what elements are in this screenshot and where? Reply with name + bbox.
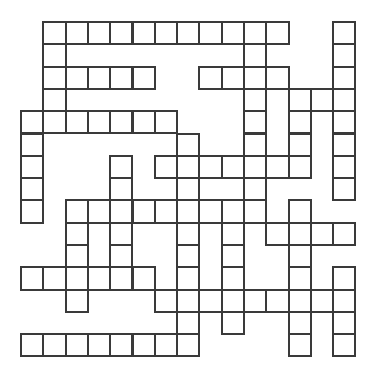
crossword-cell-r0-c3[interactable] <box>87 21 111 45</box>
crossword-cell-r1-c10[interactable] <box>243 43 267 67</box>
crossword-cell-r5-c14[interactable] <box>332 133 356 157</box>
crossword-cell-r6-c14[interactable] <box>332 155 356 179</box>
crossword-cell-r14-c2[interactable] <box>65 333 89 357</box>
crossword-cell-r4-c2[interactable] <box>65 110 89 134</box>
crossword-cell-r5-c0[interactable] <box>20 133 44 157</box>
crossword-cell-r10-c12[interactable] <box>288 244 312 268</box>
crossword-cell-r11-c2[interactable] <box>65 266 89 290</box>
crossword-cell-r6-c7[interactable] <box>176 155 200 179</box>
crossword-cell-r10-c9[interactable] <box>221 244 245 268</box>
crossword-cell-r14-c14[interactable] <box>332 333 356 357</box>
crossword-cell-r11-c4[interactable] <box>109 266 133 290</box>
crossword-cell-r4-c1[interactable] <box>42 110 66 134</box>
crossword-cell-r9-c2[interactable] <box>65 222 89 246</box>
crossword-cell-r3-c1[interactable] <box>42 88 66 112</box>
crossword-cell-r2-c2[interactable] <box>65 66 89 90</box>
crossword-cell-r0-c6[interactable] <box>154 21 178 45</box>
crossword-cell-r11-c3[interactable] <box>87 266 111 290</box>
crossword-cell-r2-c1[interactable] <box>42 66 66 90</box>
crossword-cell-r13-c7[interactable] <box>176 311 200 335</box>
crossword-cell-r2-c8[interactable] <box>198 66 222 90</box>
crossword-cell-r8-c12[interactable] <box>288 199 312 223</box>
crossword-cell-r2-c9[interactable] <box>221 66 245 90</box>
crossword-cell-r14-c1[interactable] <box>42 333 66 357</box>
crossword-cell-r2-c3[interactable] <box>87 66 111 90</box>
crossword-cell-r8-c7[interactable] <box>176 199 200 223</box>
crossword-cell-r7-c7[interactable] <box>176 177 200 201</box>
crossword-cell-r14-c12[interactable] <box>288 333 312 357</box>
crossword-cell-r1-c1[interactable] <box>42 43 66 67</box>
crossword-cell-r4-c4[interactable] <box>109 110 133 134</box>
crossword-cell-r10-c2[interactable] <box>65 244 89 268</box>
crossword-cell-r6-c9[interactable] <box>221 155 245 179</box>
crossword-cell-r0-c4[interactable] <box>109 21 133 45</box>
crossword-cell-r10-c7[interactable] <box>176 244 200 268</box>
crossword-cell-r2-c4[interactable] <box>109 66 133 90</box>
crossword-cell-r13-c9[interactable] <box>221 311 245 335</box>
crossword-cell-r12-c2[interactable] <box>65 289 89 313</box>
crossword-cell-r11-c5[interactable] <box>132 266 156 290</box>
crossword-cell-r4-c0[interactable] <box>20 110 44 134</box>
crossword-cell-r4-c10[interactable] <box>243 110 267 134</box>
crossword-cell-r11-c1[interactable] <box>42 266 66 290</box>
crossword-cell-r0-c7[interactable] <box>176 21 200 45</box>
crossword-cell-r9-c9[interactable] <box>221 222 245 246</box>
crossword-cell-r1-c14[interactable] <box>332 43 356 67</box>
crossword-cell-r8-c4[interactable] <box>109 199 133 223</box>
crossword-cell-r11-c7[interactable] <box>176 266 200 290</box>
crossword-cell-r2-c11[interactable] <box>265 66 289 90</box>
crossword-cell-r9-c14[interactable] <box>332 222 356 246</box>
crossword-cell-r9-c13[interactable] <box>310 222 334 246</box>
crossword-cell-r6-c6[interactable] <box>154 155 178 179</box>
crossword-cell-r12-c7[interactable] <box>176 289 200 313</box>
crossword-cell-r3-c10[interactable] <box>243 88 267 112</box>
crossword-cell-r6-c11[interactable] <box>265 155 289 179</box>
crossword-cell-r5-c7[interactable] <box>176 133 200 157</box>
crossword-cell-r11-c12[interactable] <box>288 266 312 290</box>
crossword-cell-r12-c11[interactable] <box>265 289 289 313</box>
crossword-cell-r0-c10[interactable] <box>243 21 267 45</box>
crossword-cell-r8-c9[interactable] <box>221 199 245 223</box>
crossword-cell-r12-c12[interactable] <box>288 289 312 313</box>
crossword-cell-r7-c10[interactable] <box>243 177 267 201</box>
crossword-cell-r5-c10[interactable] <box>243 133 267 157</box>
crossword-cell-r6-c4[interactable] <box>109 155 133 179</box>
crossword-cell-r3-c13[interactable] <box>310 88 334 112</box>
crossword-cell-r14-c7[interactable] <box>176 333 200 357</box>
crossword-cell-r0-c1[interactable] <box>42 21 66 45</box>
crossword-cell-r8-c8[interactable] <box>198 199 222 223</box>
crossword-cell-r0-c8[interactable] <box>198 21 222 45</box>
crossword-cell-r12-c13[interactable] <box>310 289 334 313</box>
crossword-cell-r14-c5[interactable] <box>132 333 156 357</box>
crossword-cell-r8-c5[interactable] <box>132 199 156 223</box>
crossword-cell-r5-c12[interactable] <box>288 133 312 157</box>
crossword-cell-r2-c10[interactable] <box>243 66 267 90</box>
crossword-cell-r0-c11[interactable] <box>265 21 289 45</box>
crossword-cell-r6-c0[interactable] <box>20 155 44 179</box>
crossword-cell-r14-c0[interactable] <box>20 333 44 357</box>
crossword-cell-r4-c6[interactable] <box>154 110 178 134</box>
crossword-cell-r0-c14[interactable] <box>332 21 356 45</box>
crossword-cell-r8-c6[interactable] <box>154 199 178 223</box>
crossword-cell-r11-c9[interactable] <box>221 266 245 290</box>
crossword-cell-r8-c10[interactable] <box>243 199 267 223</box>
crossword-cell-r14-c4[interactable] <box>109 333 133 357</box>
crossword-cell-r8-c2[interactable] <box>65 199 89 223</box>
crossword-cell-r6-c8[interactable] <box>198 155 222 179</box>
crossword-cell-r0-c9[interactable] <box>221 21 245 45</box>
crossword-cell-r3-c14[interactable] <box>332 88 356 112</box>
crossword-cell-r7-c4[interactable] <box>109 177 133 201</box>
crossword-cell-r9-c11[interactable] <box>265 222 289 246</box>
crossword-cell-r8-c0[interactable] <box>20 199 44 223</box>
crossword-cell-r10-c4[interactable] <box>109 244 133 268</box>
crossword-cell-r11-c0[interactable] <box>20 266 44 290</box>
crossword-cell-r6-c12[interactable] <box>288 155 312 179</box>
crossword-cell-r0-c2[interactable] <box>65 21 89 45</box>
crossword-cell-r4-c5[interactable] <box>132 110 156 134</box>
crossword-cell-r12-c14[interactable] <box>332 289 356 313</box>
crossword-cell-r3-c12[interactable] <box>288 88 312 112</box>
crossword-cell-r12-c9[interactable] <box>221 289 245 313</box>
crossword-cell-r9-c4[interactable] <box>109 222 133 246</box>
crossword-cell-r7-c14[interactable] <box>332 177 356 201</box>
crossword-cell-r0-c5[interactable] <box>132 21 156 45</box>
